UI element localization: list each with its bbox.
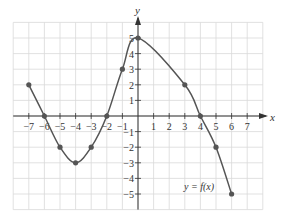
data-point [198,113,203,118]
data-point [73,160,78,165]
y-tick-label: −5 [123,189,134,200]
data-point [104,113,109,118]
function-label: y = f(x) [183,181,215,193]
x-tick-label: −3 [86,121,97,132]
x-tick-label: 7 [245,121,250,132]
axes [13,16,268,210]
y-tick-label: 2 [129,80,134,91]
data-point [213,145,218,150]
y-tick-label: 1 [129,95,134,106]
data-point [135,35,140,40]
y-tick-label: 3 [129,64,134,75]
data-point [26,82,31,87]
data-point [182,82,187,87]
x-tick-label: 5 [214,121,219,132]
x-tick-label: 1 [151,121,156,132]
y-tick-label: −4 [123,173,134,184]
x-tick-label: 3 [182,121,187,132]
x-axis-arrow-icon [259,113,268,119]
data-point [89,145,94,150]
data-point [120,67,125,72]
data-point [57,145,62,150]
y-axis-label: y [134,4,140,16]
x-tick-label: 6 [229,121,234,132]
x-tick-label: 4 [198,121,203,132]
x-tick-label: −5 [55,121,66,132]
data-point [229,191,234,196]
y-tick-label: 4 [129,49,134,60]
y-axis-arrow-icon [135,16,141,25]
y-tick-label: −3 [123,158,134,169]
x-tick-label: −4 [70,121,81,132]
data-point [42,113,47,118]
y-tick-label: −1 [123,127,134,138]
x-tick-label: 2 [167,121,172,132]
x-tick-label: −7 [23,121,34,132]
function-graph: −7−6−5−4−3−2−11234567−5−4−3−2−112345 x y… [0,0,284,216]
x-axis-label: x [269,111,275,123]
y-tick-label: −2 [123,142,134,153]
